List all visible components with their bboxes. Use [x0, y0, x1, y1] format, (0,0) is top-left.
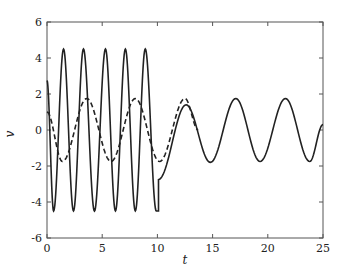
y-axis-label: v — [3, 130, 17, 137]
x-tick-label: 25 — [316, 242, 330, 255]
y-tick-label: 6 — [35, 16, 42, 29]
x-tick-label: 10 — [150, 242, 164, 255]
y-tick-label: -6 — [31, 232, 42, 245]
y-tick-label: 0 — [35, 124, 42, 137]
x-axis-label: t — [183, 253, 188, 267]
y-tick-label: 4 — [35, 52, 42, 65]
y-tick-labels: -6-4-20246 — [31, 16, 42, 245]
plot-area — [47, 22, 323, 238]
y-tick-label: 2 — [35, 88, 42, 101]
line-chart: 0510152025 -6-4-20246 t v — [0, 0, 343, 278]
series-solid-line — [47, 49, 323, 211]
data-curves — [47, 49, 323, 211]
x-tick-label: 5 — [99, 242, 106, 255]
y-tick-label: -2 — [31, 160, 42, 173]
x-tick-label: 15 — [206, 242, 220, 255]
x-tick-label: 0 — [44, 242, 51, 255]
y-tick-label: -4 — [31, 196, 42, 209]
x-tick-label: 20 — [261, 242, 275, 255]
